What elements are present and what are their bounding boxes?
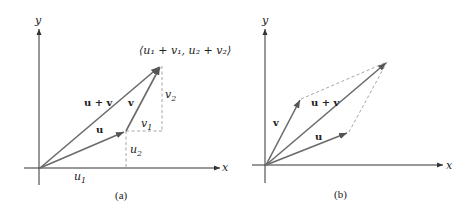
label-u2: u2 [130, 143, 142, 158]
label-u-plus-v: u + v [311, 97, 341, 108]
label-v: v [127, 97, 135, 108]
x-axis-label: x [222, 161, 229, 174]
vector-u-plus-v [266, 63, 386, 165]
panel-a: y x u + v v u v1 v2 u2 u1 ⟨u₁ + v₁, u₂ +… [24, 14, 231, 202]
x-axis-label: x [446, 159, 453, 172]
vector-u [266, 133, 347, 165]
label-u-plus-v: u + v [84, 97, 114, 108]
label-u1: u1 [74, 170, 86, 185]
parallelogram-right-side [349, 62, 387, 132]
label-u: u [96, 124, 103, 135]
vector-u [40, 132, 124, 168]
label-v1: v1 [141, 117, 152, 132]
y-axis-label: y [34, 14, 42, 27]
label-v2: v2 [165, 88, 176, 103]
label-u: u [315, 131, 322, 142]
caption-b: (b) [334, 188, 347, 201]
vector-addition-figure: y x u + v v u v1 v2 u2 u1 ⟨u₁ + v₁, u₂ +… [0, 0, 472, 211]
vector-v [266, 100, 300, 165]
label-sum-point: ⟨u₁ + v₁, u₂ + v₂⟩ [139, 44, 231, 57]
label-v: v [272, 117, 280, 128]
caption-a: (a) [115, 189, 128, 202]
y-axis-label: y [261, 14, 269, 27]
panel-b: y x u + v v u (b) [252, 14, 453, 201]
parallelogram-top-side [301, 62, 387, 99]
